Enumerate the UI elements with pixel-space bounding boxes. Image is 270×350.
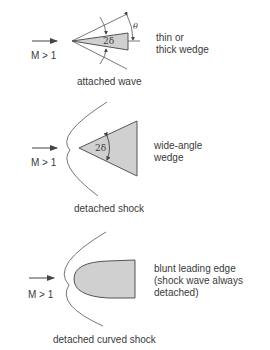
wedge-angle-label: 2δ (103, 36, 114, 47)
mach-label: M > 1 (31, 50, 56, 61)
wide-wedge-body (79, 121, 137, 176)
caption-attached-wave: attached wave (77, 76, 142, 87)
wedge-type-label-line1: thin or (156, 32, 184, 43)
caption-detached-curved-shock: detached curved shock (53, 334, 156, 345)
wedge-angle-label: 2δ (95, 143, 106, 154)
wedge-type-label-line1: wide-angle (154, 140, 202, 151)
mach-label: M > 1 (31, 157, 56, 168)
detached-shock-panel (32, 102, 137, 196)
blunt-body-panel (29, 232, 135, 326)
wedge-type-label-line2: thick wedge (156, 44, 209, 55)
caption-detached-shock: detached shock (74, 203, 144, 214)
blunt-label-line1: blunt leading edge (154, 263, 236, 274)
blunt-label-line3: detached) (154, 287, 198, 298)
blunt-body (74, 260, 135, 298)
blunt-label-line2: (shock wave always (154, 275, 243, 286)
wedge-type-label-line2: wedge (154, 152, 183, 163)
thin-wedge-body (72, 33, 128, 50)
mach-label: M > 1 (28, 289, 53, 300)
shock-angle-label: θ (133, 21, 138, 32)
